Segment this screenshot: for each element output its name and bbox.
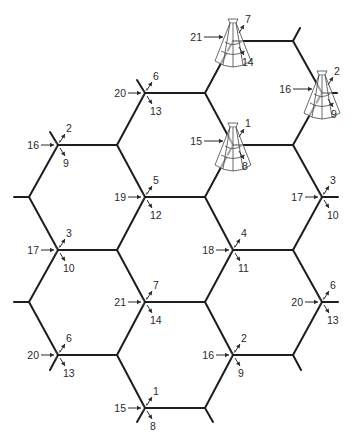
hex-edge: [293, 250, 322, 302]
sector-label-down: 10: [327, 209, 339, 221]
sector-label-left: 20: [114, 87, 126, 99]
sector-label-up: 5: [153, 174, 159, 186]
sector-label-down: 9: [63, 157, 69, 169]
hex-edge: [117, 145, 145, 197]
sector-label-left: 16: [27, 139, 39, 151]
hex-edge: [205, 355, 233, 408]
sector-label-left: 21: [190, 31, 202, 43]
sector-label-down: 13: [150, 105, 162, 117]
sector-label-down: 13: [63, 367, 75, 379]
sector-label-left: 16: [279, 83, 291, 95]
sector-label-left: 20: [291, 296, 303, 308]
sector-label-down: 14: [242, 56, 254, 68]
sector-label-up: 2: [334, 65, 340, 77]
sector-label-up: 3: [330, 174, 336, 186]
hex-edge: [117, 355, 145, 408]
sector-label-down: 13: [327, 314, 339, 326]
sector-label-down: 10: [63, 262, 75, 274]
sector-label-up: 4: [241, 227, 247, 239]
sector-label-down: 9: [238, 367, 244, 379]
hex-edge: [293, 28, 300, 41]
hex-edge: [50, 355, 58, 370]
hex-edge: [293, 145, 322, 197]
sector-label-up: 2: [66, 122, 72, 134]
hex-edge: [29, 250, 58, 302]
sector-label-up: 6: [330, 279, 336, 291]
sector-label-up: 2: [241, 332, 247, 344]
sector-label-left: 15: [190, 135, 202, 147]
hex-edge: [117, 302, 145, 355]
hex-edge: [117, 197, 145, 250]
hex-edge: [205, 250, 233, 302]
sector-label-down: 12: [150, 209, 162, 221]
sector-label-down: 14: [150, 314, 162, 326]
sector-label-down: 8: [150, 420, 156, 432]
sector-label-left: 15: [114, 402, 126, 414]
hex-edge: [137, 408, 145, 422]
sector-label-left: 21: [114, 296, 126, 308]
hex-edge: [205, 197, 233, 250]
hex-edge: [293, 302, 322, 355]
sector-label-down: 9: [331, 108, 337, 120]
hex-edge: [293, 355, 301, 370]
sector-label-up: 7: [153, 279, 159, 291]
hex-edge: [117, 93, 145, 145]
hex-edge: [29, 302, 58, 355]
hex-edge: [205, 302, 233, 355]
hex-edge: [117, 250, 145, 302]
sector-label-left: 17: [27, 244, 39, 256]
hex-edge: [29, 145, 58, 197]
sector-label-up: 1: [153, 385, 159, 397]
sector-label-up: 7: [245, 13, 251, 25]
sector-label-up: 6: [66, 332, 72, 344]
sector-label-left: 17: [291, 191, 303, 203]
hex-edge: [205, 408, 213, 422]
sector-label-up: 1: [245, 117, 251, 129]
cell-sites: 2171416292061316291518195121731017310184…: [27, 13, 340, 432]
sector-label-left: 19: [114, 191, 126, 203]
sector-label-up: 6: [153, 70, 159, 82]
sector-label-down: 11: [238, 262, 249, 274]
sector-label-left: 20: [27, 349, 39, 361]
hex-cell-diagram: Hexagonal cell layout with 21-channel-se…: [0, 0, 358, 441]
sector-label-down: 8: [242, 160, 248, 172]
sector-label-left: 16: [202, 349, 214, 361]
hex-edge: [293, 197, 322, 250]
hex-edge: [29, 197, 58, 250]
sector-label-up: 3: [66, 227, 72, 239]
sector-label-left: 18: [202, 244, 214, 256]
